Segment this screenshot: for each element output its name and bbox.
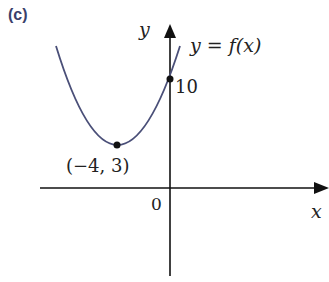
vertex-label: (−4, 3) xyxy=(66,155,129,176)
y-intercept-label: 10 xyxy=(175,76,198,97)
x-axis-arrow-icon xyxy=(314,182,329,194)
x-axis-label: x xyxy=(311,200,322,222)
y-axis-label: y xyxy=(139,18,150,40)
vertex-point xyxy=(114,142,121,149)
y-intercept-point xyxy=(167,76,174,83)
graph-figure: (c) y y = f(x) 10 (−4, 3) 0 x xyxy=(0,0,329,282)
y-axis-arrow-icon xyxy=(164,24,176,38)
curve-label: y = f(x) xyxy=(190,34,261,56)
graph-canvas xyxy=(0,0,329,282)
parabola-curve xyxy=(56,46,180,145)
origin-label: 0 xyxy=(151,194,162,214)
